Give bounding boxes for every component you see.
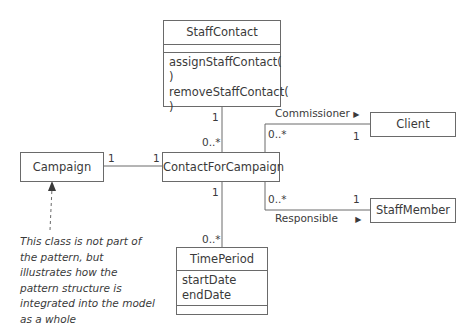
class-contact-for-campaign[interactable]: ContactForCampaign [162, 152, 280, 182]
multiplicity-cfc-end-top: 0..* [202, 136, 221, 148]
multiplicity-cfc-end-commissioner: 0..* [268, 128, 287, 140]
association-name-responsible: Responsible ▶ [275, 212, 361, 224]
class-name: Client [371, 113, 455, 136]
class-staff-contact[interactable]: StaffContact assignStaffContact( ) remov… [163, 20, 281, 107]
class-name: TimePeriod [177, 248, 267, 270]
direction-arrow-icon: ▶ [355, 215, 361, 224]
class-name: StaffMember [371, 199, 455, 222]
multiplicity-cfc-end-responsible: 0..* [268, 193, 287, 205]
class-staff-member[interactable]: StaffMember [370, 198, 456, 223]
annotation-note: This class is not part of the pattern, b… [20, 234, 155, 325]
direction-arrow-icon: ▶ [353, 110, 359, 119]
multiplicity-time-period-end: 0..* [202, 233, 221, 245]
multiplicity-cfc-end-left: 1 [153, 152, 160, 164]
multiplicity-cfc-end-bottom: 1 [212, 186, 219, 198]
class-campaign[interactable]: Campaign [20, 152, 104, 182]
operations-compartment [177, 305, 267, 312]
operations-compartment: assignStaffContact( ) removeStaffContact… [164, 52, 280, 117]
operation: removeStaffContact( ) [169, 85, 275, 115]
multiplicity-staff-member-end: 1 [353, 193, 360, 205]
class-client[interactable]: Client [370, 112, 456, 137]
attributes-compartment [164, 44, 280, 52]
association-name-commissioner: Commissioner ▶ [275, 107, 359, 119]
multiplicity-staff-contact-end: 1 [212, 111, 219, 123]
class-name: Campaign [21, 153, 103, 181]
class-name: ContactForCampaign [163, 153, 279, 181]
attribute: startDate [182, 273, 262, 288]
multiplicity-campaign-end: 1 [108, 152, 115, 164]
class-time-period[interactable]: TimePeriod startDate endDate [176, 247, 268, 315]
multiplicity-client-end: 1 [353, 130, 360, 142]
operation: assignStaffContact( ) [169, 55, 275, 85]
class-name: StaffContact [164, 21, 280, 44]
attribute: endDate [182, 288, 262, 303]
attributes-compartment: startDate endDate [177, 270, 267, 305]
